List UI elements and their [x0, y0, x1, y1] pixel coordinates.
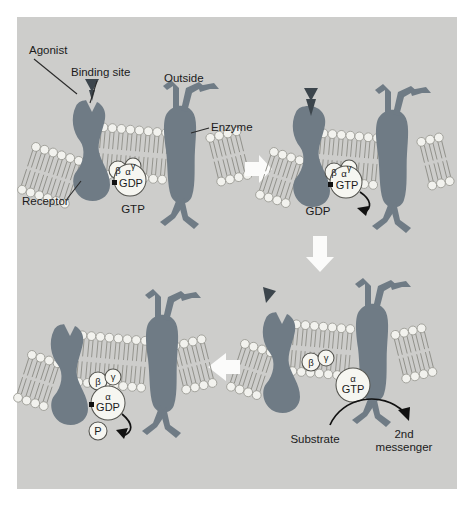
receptor-p3: [263, 312, 300, 413]
receptor-label: Receptor: [22, 195, 69, 207]
free-gdp-label-p2: GDP: [306, 205, 331, 217]
g-protein-p2: β γ α GTP: [325, 160, 362, 198]
gdp-label-p4: GDP: [96, 401, 120, 413]
lipid-leaflet-lower: [397, 351, 438, 384]
gamma-subunit-label-p4: γ: [111, 371, 116, 382]
panel-4: β γ α GDP P: [13, 289, 218, 440]
alpha-subunit-label-p2: α: [341, 168, 347, 179]
beta-subunit-label-p1: β: [115, 165, 121, 176]
beta-subunit-label-p3: β: [308, 357, 314, 368]
beta-gamma-dimer-p3: β γ: [302, 350, 334, 371]
receptor-p1: [73, 100, 110, 201]
gdp-release-arrow-p2: [357, 192, 370, 216]
phosphate-release-arrow-p4: [116, 414, 131, 439]
gtp-label-p2: GTP: [336, 179, 359, 191]
lipid-leaflet-upper: [390, 323, 431, 356]
free-gtp-label-p1: GTP: [121, 203, 145, 215]
beta-subunit-label-p4: β: [95, 376, 101, 387]
enzyme-label: Enzyme: [211, 121, 253, 133]
alpha-subunit-label-p1: α: [125, 166, 131, 177]
phosphate-p4: P: [89, 422, 107, 440]
alpha-gtp-p3: α GTP: [336, 368, 370, 402]
lipid-leaflet-upper: [290, 320, 355, 351]
g-protein-p4: β γ α GDP: [89, 369, 125, 420]
enzyme-p2: [372, 84, 431, 233]
agonist-label: Agonist: [29, 44, 68, 56]
lipid-leaflet-upper: [416, 132, 448, 163]
lipid-leaflet-lower: [13, 376, 55, 411]
lipid-leaflet-upper: [97, 123, 171, 155]
gpcr-cycle-illustration: β γ α GDP GTP Agonist Binding site Outsi…: [0, 0, 474, 506]
panel-3: β γ α GTP Substrate 2nd messenger: [226, 278, 438, 453]
gamma-subunit-label-p2: γ: [347, 162, 352, 173]
g-protein-p1: β γ α GDP: [109, 158, 146, 196]
lipid-leaflet-upper: [317, 129, 382, 160]
arrow-panel2-to-panel3: [306, 236, 334, 272]
enzyme-p4: [142, 289, 201, 438]
phosphate-label-p4: P: [94, 425, 101, 437]
lipid-leaflet-upper: [76, 331, 150, 363]
gamma-subunit-label-p1: γ: [131, 160, 136, 171]
agonist-dissociating-p3: [263, 287, 276, 303]
enzyme-p1: [160, 80, 219, 229]
second-messenger-label-line1: 2nd: [394, 428, 413, 440]
beta-subunit-label-p2: β: [331, 167, 337, 178]
gpcr-cycle-figure: β γ α GDP GTP Agonist Binding site Outsi…: [0, 0, 474, 506]
gamma-subunit-label-p3: γ: [324, 352, 329, 363]
panel-2: β γ α GTP GDP: [255, 84, 456, 233]
panel-1: β γ α GDP GTP Agonist Binding site Outsi…: [17, 44, 253, 229]
second-messenger-label-line2: messenger: [376, 441, 433, 453]
binding-site-label: Binding site: [71, 66, 130, 78]
substrate-label: Substrate: [290, 433, 339, 445]
gtp-label-p3: GTP: [342, 383, 365, 395]
outside-label: Outside: [164, 72, 204, 84]
gdp-label-p1: GDP: [119, 177, 143, 189]
lipid-leaflet-lower: [423, 160, 455, 191]
